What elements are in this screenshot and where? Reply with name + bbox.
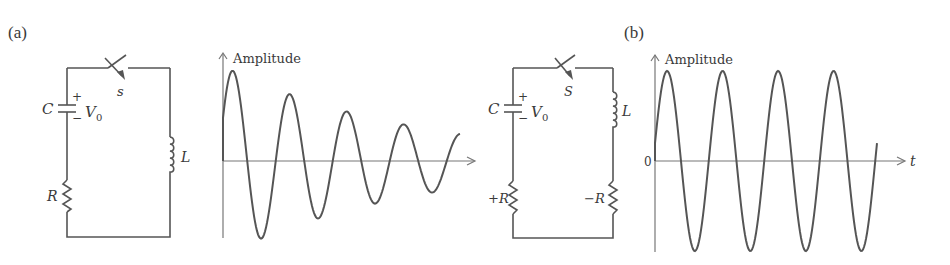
switch-label: S — [564, 84, 573, 99]
switch-label: s — [117, 84, 124, 99]
voltage-subscript: 0 — [542, 112, 548, 123]
positive-resistor-icon — [509, 181, 517, 214]
plot-b: Amplitude 0 t — [644, 52, 916, 252]
panel-b-label: (b) — [624, 23, 644, 42]
switch-icon — [105, 55, 126, 80]
resistor-icon — [63, 180, 71, 212]
minus-sign: − — [72, 111, 82, 125]
panel-a-label: (a) — [8, 23, 27, 42]
minus-sign: − — [518, 111, 528, 125]
damped-oscillation-curve — [223, 71, 460, 239]
capacitor-label: C — [488, 100, 500, 118]
plus-sign: + — [518, 90, 528, 104]
plot-a: Amplitude — [219, 51, 475, 239]
circuit-a: s + − C V 0 R L — [42, 55, 190, 237]
inductor-icon — [170, 137, 174, 177]
inductor-label: L — [621, 103, 631, 119]
capacitor-label: C — [42, 100, 54, 118]
inductor-label: L — [180, 149, 190, 165]
switch-icon — [555, 55, 575, 80]
plus-sign: + — [72, 90, 82, 104]
circuit-b: S + − C V 0 +R L −R — [488, 55, 631, 238]
origin-label: 0 — [644, 155, 652, 169]
negative-resistor-label: −R — [584, 191, 605, 206]
voltage-subscript: 0 — [96, 112, 102, 123]
x-axis-label: t — [910, 153, 916, 169]
figure: (a) s + − C V 0 R L — [0, 0, 950, 265]
y-axis-label: Amplitude — [232, 51, 301, 66]
bottom-wire — [513, 214, 613, 238]
inductor-icon — [613, 92, 617, 128]
positive-resistor-label: +R — [488, 191, 509, 206]
y-axis-label: Amplitude — [664, 52, 733, 67]
bottom-wire — [67, 177, 170, 237]
resistor-label: R — [46, 188, 58, 204]
negative-resistor-icon — [609, 181, 617, 214]
